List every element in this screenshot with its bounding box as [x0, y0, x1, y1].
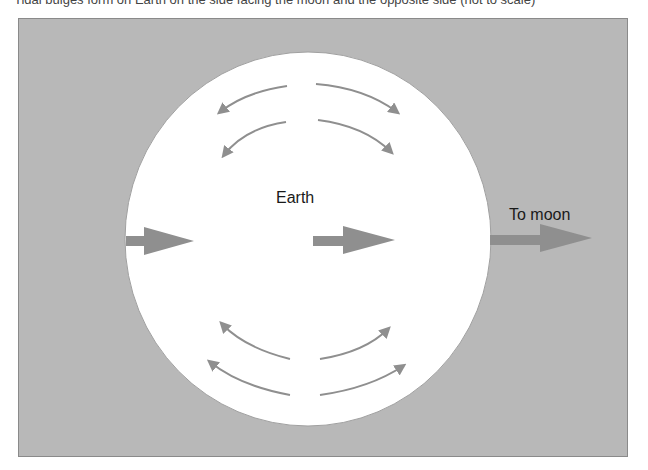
moon-force-arrow-icon [490, 224, 592, 252]
to-moon-label: To moon [509, 206, 570, 224]
earth-label: Earth [276, 189, 314, 207]
tidal-force-diagram [0, 0, 648, 470]
